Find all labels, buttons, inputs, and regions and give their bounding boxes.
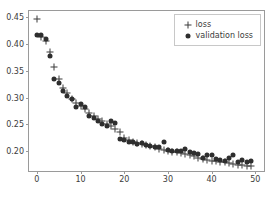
- y-tick-label: 0.25: [6, 120, 24, 129]
- legend-item-validation-loss: validation loss: [180, 30, 253, 41]
- matplotlib-figure: 0.200.250.300.350.400.45 01020304050 los…: [0, 0, 273, 197]
- x-tick-mark: [124, 171, 125, 174]
- y-tick-label: 0.30: [6, 93, 24, 102]
- data-point-dot: [56, 80, 61, 85]
- data-point-plus: [51, 64, 58, 71]
- x-tick-mark: [168, 171, 169, 174]
- data-point-dot: [248, 158, 253, 163]
- y-tick-label: 0.20: [6, 147, 24, 156]
- data-point-dot: [69, 97, 74, 102]
- data-point-dot: [104, 123, 109, 128]
- x-tick-mark: [81, 171, 82, 174]
- data-point-dot: [47, 54, 52, 59]
- legend-label-validation-loss: validation loss: [196, 31, 253, 40]
- plot-axes: 0.200.250.300.350.400.45 01020304050 los…: [28, 10, 265, 172]
- dot-marker-icon: [180, 30, 196, 41]
- chart-legend: loss validation loss: [174, 14, 261, 46]
- data-point-plus: [33, 16, 40, 23]
- data-point-dot: [43, 37, 48, 42]
- x-tick-mark: [212, 171, 213, 174]
- x-tick-mark: [255, 171, 256, 174]
- data-point-dot: [61, 88, 66, 93]
- x-tick-mark: [37, 171, 38, 174]
- plus-marker-icon: [180, 19, 196, 30]
- data-point-dot: [231, 153, 236, 158]
- x-tick-label: 20: [119, 175, 129, 184]
- x-tick-label: 30: [163, 175, 173, 184]
- y-tick-label: 0.45: [6, 13, 24, 22]
- data-point-dot: [113, 120, 118, 125]
- data-point-dot: [157, 145, 162, 150]
- x-tick-label: 40: [206, 175, 216, 184]
- y-tick-label: 0.35: [6, 66, 24, 75]
- x-tick-label: 0: [34, 175, 39, 184]
- legend-item-loss: loss: [180, 19, 253, 30]
- data-point-dot: [161, 139, 166, 144]
- x-tick-label: 10: [75, 175, 85, 184]
- data-point-dot: [82, 105, 87, 110]
- x-tick-label: 50: [250, 175, 260, 184]
- legend-label-loss: loss: [196, 20, 211, 29]
- y-tick-label: 0.40: [6, 40, 24, 49]
- data-point-dot: [39, 32, 44, 37]
